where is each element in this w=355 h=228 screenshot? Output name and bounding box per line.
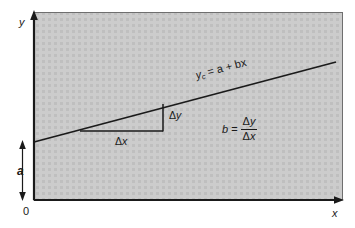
slope-formula-equals: = bbox=[231, 124, 237, 135]
delta-y-label: Δy bbox=[169, 110, 181, 121]
intercept-arrowhead-top bbox=[19, 140, 26, 149]
paper-texture bbox=[34, 13, 342, 199]
delta-x-variable: x bbox=[122, 135, 127, 147]
numerator-delta-symbol: Δ bbox=[243, 115, 250, 127]
origin-label: 0 bbox=[23, 206, 29, 217]
slope-formula-fraction: Δy Δx bbox=[241, 116, 258, 143]
intercept-label: a bbox=[17, 165, 24, 177]
slope-formula-denominator: Δx bbox=[241, 129, 258, 143]
x-axis-label: x bbox=[332, 208, 338, 219]
denominator-variable: x bbox=[250, 130, 256, 142]
denominator-delta-symbol: Δ bbox=[243, 130, 250, 142]
delta-y-variable: y bbox=[176, 109, 181, 121]
slope-formula-numerator: Δy bbox=[241, 116, 258, 129]
delta-x-symbol: Δ bbox=[115, 135, 122, 147]
delta-x-label: Δx bbox=[115, 136, 127, 147]
regression-line-figure: y x 0 a yc = a + bx Δy Δx b = Δy Δx bbox=[0, 0, 355, 228]
intercept-arrowhead-bottom bbox=[19, 192, 26, 201]
y-axis-label: y bbox=[19, 17, 25, 28]
delta-y-symbol: Δ bbox=[169, 109, 176, 121]
slope-formula: b = Δy Δx bbox=[222, 116, 257, 143]
slope-formula-lhs: b bbox=[222, 124, 228, 135]
numerator-variable: y bbox=[250, 115, 256, 127]
